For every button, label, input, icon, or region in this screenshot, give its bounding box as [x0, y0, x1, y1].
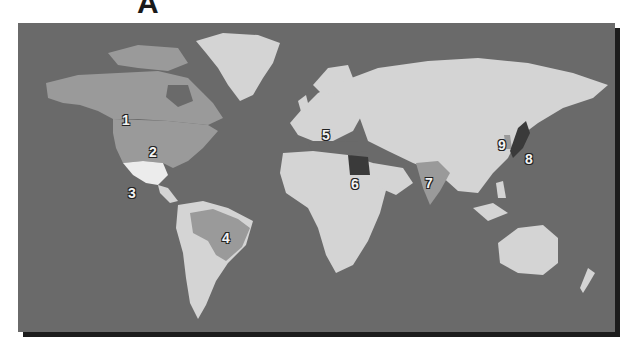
marker-3: 3: [128, 185, 136, 201]
marker-6: 6: [351, 176, 359, 192]
australia: [498, 225, 558, 275]
mexico: [123, 161, 168, 185]
marker-1: 1: [122, 112, 130, 128]
marker-7: 7: [425, 175, 433, 191]
world-map: 1 2 3 4 5 6 7 8 9: [18, 23, 615, 332]
world-map-graphic: [18, 23, 615, 332]
marker-8: 8: [525, 151, 533, 167]
canada: [46, 71, 223, 125]
panel-label: A: [137, 0, 159, 20]
greenland: [196, 33, 280, 101]
africa: [280, 151, 388, 273]
marker-5: 5: [322, 127, 330, 143]
marker-2: 2: [149, 144, 157, 160]
marker-9: 9: [498, 137, 506, 153]
egypt: [348, 155, 370, 175]
marker-4: 4: [222, 230, 230, 246]
